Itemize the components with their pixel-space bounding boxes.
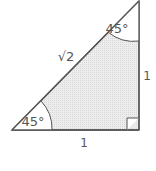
triangle-diagram: 45° 45° √2 1 1	[0, 0, 156, 171]
angle-label-top: 45°	[105, 21, 128, 36]
hypotenuse-label: √2	[58, 49, 75, 64]
horizontal-leg-label: 1	[80, 136, 88, 150]
angle-label-bottom-left: 45°	[21, 114, 44, 129]
shaded-region	[40, 32, 139, 130]
vertical-leg-label: 1	[143, 69, 151, 83]
